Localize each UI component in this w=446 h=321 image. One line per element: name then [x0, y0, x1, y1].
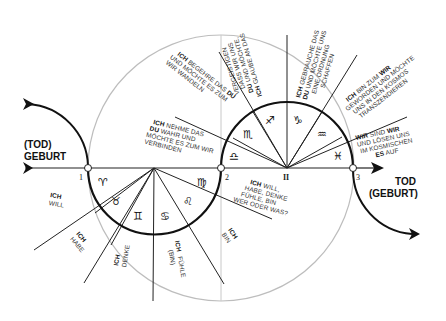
- statement-pisces: WIR SIND WIR UND LÖSEN UNS IM KOSMISCHEN…: [355, 123, 415, 162]
- zodiac-diagram: 1 2 3 II ♈ ♉ ♊ ♋ ♌ ♍ ♎ ♏ ♐ ♑ ♒ ♓ (TOD) G…: [0, 0, 446, 321]
- point-2: [218, 165, 225, 172]
- statement-will: ICH WILL: [48, 191, 66, 208]
- pisces-icon: ♓: [333, 150, 343, 163]
- statement-aquarius: ICH BIN ZUM WIR GEWORDEN UND MÖCHTE UNS …: [340, 48, 424, 123]
- point-3: [350, 165, 357, 172]
- point-1: [85, 165, 92, 172]
- statement-bin: ICH BIN: [221, 227, 240, 245]
- leo-icon: ♌: [183, 195, 193, 208]
- libra-icon: ♎: [229, 150, 239, 163]
- statement-fuehle: ICH FÜHLE (BIN): [165, 240, 187, 280]
- point-2-label: 2: [225, 173, 229, 182]
- capricorn-icon: ♑: [293, 114, 303, 127]
- right-label-line1: TOD: [395, 176, 416, 187]
- scorpio-icon: ♏: [243, 128, 253, 141]
- svg-text:FÜHLE: FÜHLE: [177, 256, 188, 278]
- statement-libra: ICH NEHME DAS DU WAHR UND MÖCHTE ES ZUM …: [144, 117, 218, 161]
- virgo-icon: ♍: [197, 176, 207, 189]
- svg-text:WILL: WILL: [48, 199, 65, 209]
- left-label-line2: GEBURT: [24, 151, 66, 162]
- left-label-line1: (TOD): [24, 139, 52, 150]
- sagittarius-icon: ♐: [265, 114, 275, 127]
- point-ii-label: II: [283, 173, 289, 182]
- aries-icon: ♈: [98, 176, 108, 189]
- point-3-label: 3: [356, 173, 360, 182]
- statement-habe: ICH HABE: [69, 230, 92, 253]
- aquarius-icon: ♒: [317, 128, 327, 141]
- point-1-label: 1: [79, 173, 83, 182]
- svg-text:(BIN): (BIN): [167, 249, 178, 266]
- gemini-icon: ♊: [133, 210, 143, 223]
- arrow-left-in-icon: [23, 162, 33, 174]
- cancer-icon: ♋: [160, 210, 170, 223]
- svg-text:UND MÖCHTE ES ZUM: UND MÖCHTE ES ZUM: [169, 53, 229, 102]
- taurus-icon: ♉: [111, 195, 121, 208]
- arrow-curve-left-icon: [23, 98, 34, 110]
- right-label-line2: (GEBURT): [369, 188, 418, 199]
